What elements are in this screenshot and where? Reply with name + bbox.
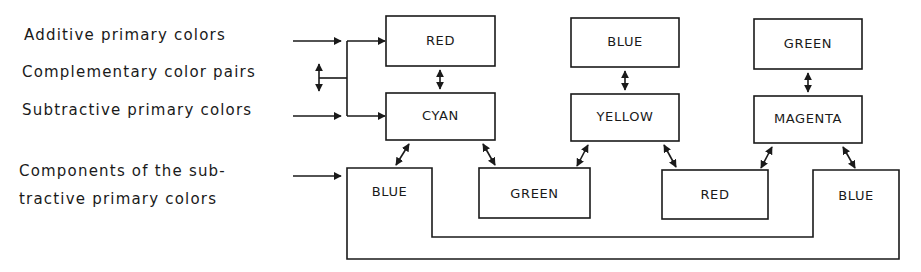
label-cyan: CYAN <box>386 108 495 123</box>
legend-components-line1: Components of the sub- <box>19 162 226 180</box>
legend-components-line2: tractive primary colors <box>19 190 217 208</box>
legend-additive: Additive primary colors <box>24 26 226 44</box>
label-yellow: YELLOW <box>571 109 679 124</box>
label-green-additive: GREEN <box>754 36 862 51</box>
label-blue-components-left: BLUE <box>347 184 432 199</box>
box-blue-components <box>347 168 899 259</box>
legend-subtractive: Subtractive primary colors <box>22 101 252 119</box>
label-green-components: GREEN <box>479 186 590 201</box>
label-red-additive: RED <box>386 33 495 48</box>
label-blue-components-right: BLUE <box>813 188 899 203</box>
label-blue-additive: BLUE <box>571 34 679 49</box>
label-red-components: RED <box>662 187 768 202</box>
label-magenta: MAGENTA <box>754 111 862 126</box>
legend-complementary: Complementary color pairs <box>22 63 256 81</box>
